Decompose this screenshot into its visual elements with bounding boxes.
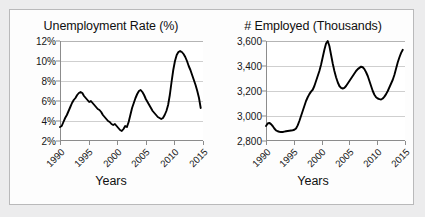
plot-area-number-employed: 2,8003,0003,2003,4003,600199019952000200… [266, 41, 405, 141]
x-tick-label: 2005 [129, 146, 152, 169]
x-tick-mark [89, 141, 90, 145]
y-tick-label: 3,600 [237, 36, 262, 47]
x-tick-mark [322, 141, 323, 145]
y-tick-label: 2,800 [237, 136, 262, 147]
x-tick-mark [117, 141, 118, 145]
x-tick-mark [174, 141, 175, 145]
y-tick-label: 3,000 [237, 111, 262, 122]
x-tick-label: 1990 [249, 146, 272, 169]
charts-container: Unemployment Rate (%) 2%4%6%8%10%12%1990… [10, 10, 415, 204]
series-line [60, 41, 203, 141]
xaxis-title-number-employed: Years [212, 174, 414, 188]
chart-unemployment-rate: Unemployment Rate (%) 2%4%6%8%10%12%1990… [10, 10, 212, 204]
x-tick-label: 2005 [333, 146, 356, 169]
x-tick-label: 2015 [388, 146, 411, 169]
x-tick-label: 1995 [72, 146, 95, 169]
x-tick-label: 1990 [43, 146, 66, 169]
charts-panel: Unemployment Rate (%) 2%4%6%8%10%12%1990… [9, 9, 414, 205]
y-tick-label: 3,400 [237, 61, 262, 72]
x-tick-mark [146, 141, 147, 145]
x-tick-mark [266, 141, 267, 145]
x-tick-label: 2010 [361, 146, 384, 169]
chart-title-unemployment-rate: Unemployment Rate (%) [10, 19, 212, 33]
x-tick-label: 1995 [277, 146, 300, 169]
xaxis-title-unemployment-rate: Years [10, 174, 212, 188]
y-tick-label: 8% [42, 76, 56, 87]
y-tick-label: 3,200 [237, 86, 262, 97]
y-tick-label: 10% [36, 56, 56, 67]
y-tick-label: 4% [42, 116, 56, 127]
x-tick-label: 2010 [158, 146, 181, 169]
x-tick-mark [377, 141, 378, 145]
x-tick-label: 2000 [101, 146, 124, 169]
y-tick-label: 6% [42, 96, 56, 107]
y-tick-label: 2% [42, 136, 56, 147]
x-tick-label: 2015 [186, 146, 209, 169]
x-tick-label: 2000 [305, 146, 328, 169]
x-tick-mark [60, 141, 61, 145]
chart-number-employed: # Employed (Thousands) 2,8003,0003,2003,… [212, 10, 414, 204]
x-tick-mark [294, 141, 295, 145]
chart-title-number-employed: # Employed (Thousands) [212, 19, 414, 33]
x-tick-mark [405, 141, 406, 145]
plot-area-unemployment-rate: 2%4%6%8%10%12%199019952000200520102015 [60, 41, 203, 141]
series-line [266, 41, 405, 141]
x-tick-mark [349, 141, 350, 145]
x-tick-mark [203, 141, 204, 145]
y-tick-label: 12% [36, 36, 56, 47]
screenshot-root: Unemployment Rate (%) 2%4%6%8%10%12%1990… [0, 0, 425, 217]
